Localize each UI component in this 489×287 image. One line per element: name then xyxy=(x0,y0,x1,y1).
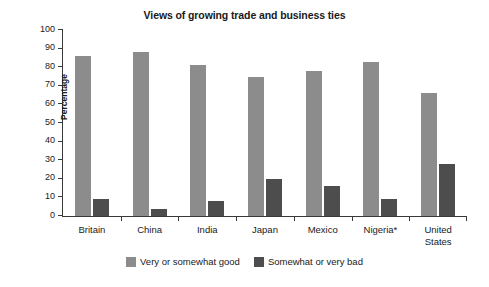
legend-label-good: Very or somewhat good xyxy=(140,256,240,267)
x-axis-label-japan: Japan xyxy=(252,224,278,236)
x-axis-label-china: China xyxy=(137,224,162,236)
y-axis-tick: 60 xyxy=(58,103,63,104)
x-axis-label-mexico: Mexico xyxy=(308,224,338,236)
bar-mexico-bad xyxy=(324,186,340,216)
y-axis-tick: 90 xyxy=(58,48,63,49)
x-axis-right-tick xyxy=(466,216,467,221)
chart-legend: Very or somewhat good Somewhat or very b… xyxy=(0,256,489,267)
bar-china-bad xyxy=(151,209,167,216)
bar-britain-bad xyxy=(93,199,109,216)
y-axis-tick: 30 xyxy=(58,159,63,160)
x-axis-tick xyxy=(121,216,122,221)
x-axis-tick xyxy=(409,216,410,221)
bar-japan-good xyxy=(248,77,264,217)
y-axis-tick: 10 xyxy=(58,196,63,197)
y-axis-tick: 70 xyxy=(58,85,63,86)
y-axis-tick-label: 20 xyxy=(45,172,55,182)
bar-china-good xyxy=(133,52,149,216)
y-axis-tick: 20 xyxy=(58,178,63,179)
legend-label-bad: Somewhat or very bad xyxy=(268,256,363,267)
y-axis-tick-label: 80 xyxy=(45,61,55,71)
y-axis-tick: 40 xyxy=(58,141,63,142)
y-axis-tick: 50 xyxy=(58,122,63,123)
x-axis-label-nigeria: Nigeria* xyxy=(364,224,398,236)
bar-japan-bad xyxy=(266,179,282,216)
x-axis-label-india: India xyxy=(197,224,218,236)
y-axis-tick-label: 100 xyxy=(40,24,55,34)
y-axis-tick: 0 xyxy=(58,215,63,216)
dark-gray-swatch-icon xyxy=(254,257,264,267)
x-axis-label-britain: Britain xyxy=(78,224,105,236)
bar-nigeria-bad xyxy=(381,199,397,216)
chart-figure: Views of growing trade and business ties… xyxy=(0,0,489,287)
bar-unitedstates-bad xyxy=(439,164,455,216)
chart-title: Views of growing trade and business ties xyxy=(0,9,489,21)
x-axis-tick xyxy=(178,216,179,221)
legend-item-bad: Somewhat or very bad xyxy=(254,256,363,267)
bar-india-good xyxy=(190,65,206,216)
y-axis-tick-label: 30 xyxy=(45,154,55,164)
y-axis-tick-label: 90 xyxy=(45,42,55,52)
y-axis-tick-label: 60 xyxy=(45,98,55,108)
x-axis-tick xyxy=(352,216,353,221)
y-axis-tick-label: 40 xyxy=(45,135,55,145)
plot-area: Percentage 1009080706050403020100 Britai… xyxy=(62,30,467,217)
x-axis-tick xyxy=(236,216,237,221)
light-gray-swatch-icon xyxy=(126,257,136,267)
x-axis-tick xyxy=(294,216,295,221)
legend-item-good: Very or somewhat good xyxy=(126,256,240,267)
bar-mexico-good xyxy=(306,71,322,216)
y-axis-tick: 80 xyxy=(58,66,63,67)
bar-britain-good xyxy=(75,56,91,216)
y-axis-tick-label: 50 xyxy=(45,117,55,127)
bar-unitedstates-good xyxy=(421,93,437,216)
y-axis-tick: 100 xyxy=(58,29,63,30)
y-axis-tick-label: 70 xyxy=(45,79,55,89)
y-axis-tick-label: 0 xyxy=(50,210,55,220)
bar-india-bad xyxy=(208,201,224,216)
x-axis-label-unitedstates: United States xyxy=(424,224,451,247)
bar-nigeria-good xyxy=(363,62,379,216)
y-axis-tick-label: 10 xyxy=(45,191,55,201)
